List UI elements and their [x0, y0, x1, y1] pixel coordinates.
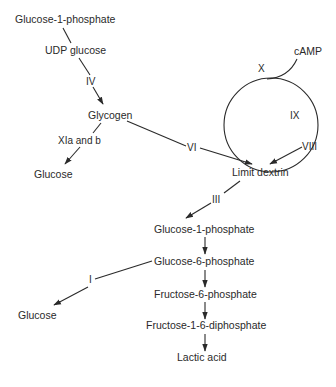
- node-glucose-left: Glucose: [34, 168, 73, 180]
- node-glucose-6-phosphate: Glucose-6-phosphate: [154, 255, 255, 267]
- edge-camp-to-cycle: [267, 59, 297, 79]
- edge-g6p-to-i-label: [95, 261, 152, 279]
- enzyme-ix: IX: [290, 110, 300, 121]
- arrow-vi-to-limit-dextrin: [200, 148, 252, 164]
- enzyme-i: I: [89, 274, 92, 285]
- node-fructose-6-phosphate: Fructose-6-phosphate: [154, 288, 257, 300]
- enzyme-x: X: [258, 63, 265, 74]
- edge-limit-dextrin-to-iii-label: [224, 181, 240, 193]
- arrow-xi-to-glucose: [65, 147, 80, 164]
- node-glucose-1-phosphate-top: Glucose-1-phosphate: [15, 13, 116, 25]
- enzyme-vi: VI: [187, 142, 196, 153]
- arrow-viii-to-limit-dextrin: [270, 147, 302, 164]
- node-glycogen: Glycogen: [88, 109, 133, 121]
- enzyme-iii: III: [212, 194, 220, 205]
- arrow-iii-to-g1p: [186, 203, 211, 218]
- arrow-i-to-glucose: [54, 287, 88, 305]
- node-limit-dextrin: Limit dextrin: [232, 166, 289, 178]
- enzyme-xi: XIa and b: [58, 135, 101, 146]
- glycogen-pathway-diagram: Glucose-1-phosphate UDP glucose Glycogen…: [0, 0, 336, 387]
- node-fructose-1-6-diphosphate: Fructose-1-6-diphosphate: [146, 319, 266, 331]
- node-udp-glucose: UDP glucose: [45, 44, 106, 56]
- phosphorylase-cycle-circle: [224, 78, 318, 172]
- edge-glycogen-to-vi-label: [127, 121, 186, 146]
- edge-glycogen-to-xi-label: [93, 123, 101, 133]
- node-glucose-bottom: Glucose: [18, 309, 57, 321]
- edge-udp-to-iv-label: [79, 58, 90, 75]
- node-glucose-1-phosphate-mid: Glucose-1-phosphate: [154, 223, 255, 235]
- node-camp: cAMP: [294, 45, 322, 57]
- arrow-iv-to-glycogen: [93, 87, 103, 104]
- edge-g1p-to-udp: [63, 28, 71, 43]
- enzyme-iv: IV: [86, 76, 96, 87]
- node-lactic-acid: Lactic acid: [177, 351, 227, 363]
